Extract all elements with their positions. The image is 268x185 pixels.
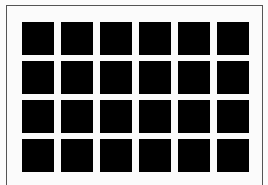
black-square [178, 100, 210, 133]
black-square [61, 100, 93, 133]
black-square [139, 22, 171, 55]
black-square [100, 100, 132, 133]
black-square [22, 139, 54, 172]
black-square [217, 22, 249, 55]
black-square [139, 61, 171, 94]
black-square [178, 22, 210, 55]
black-square [22, 61, 54, 94]
black-square [61, 61, 93, 94]
black-square [139, 100, 171, 133]
black-square [100, 139, 132, 172]
black-square [217, 139, 249, 172]
black-square [100, 61, 132, 94]
black-square [22, 22, 54, 55]
black-square [217, 100, 249, 133]
black-square [178, 139, 210, 172]
black-square [139, 139, 171, 172]
black-square [61, 22, 93, 55]
black-square [22, 100, 54, 133]
black-square [178, 61, 210, 94]
square-grid [22, 22, 249, 172]
black-square [100, 22, 132, 55]
black-square [217, 61, 249, 94]
black-square [61, 139, 93, 172]
